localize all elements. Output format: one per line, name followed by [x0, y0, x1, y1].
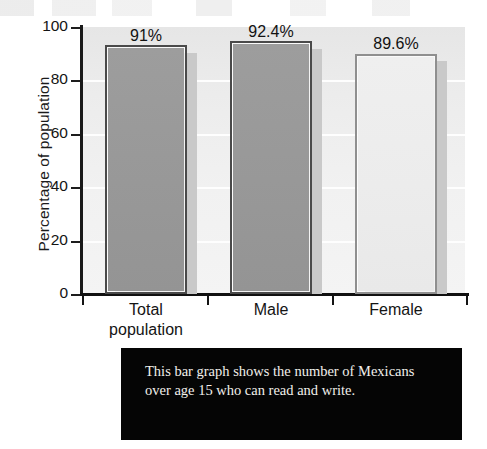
- bar-highlight-total-population: [107, 47, 185, 292]
- y-tick-label-20: 20: [24, 231, 68, 249]
- x-label-total-population: Total population: [86, 300, 206, 340]
- bar-value-female: 89.6%: [355, 35, 437, 53]
- x-tick-start: [82, 296, 84, 305]
- bar-highlight-male: [232, 43, 310, 292]
- x-tick-end: [466, 296, 468, 305]
- x-label-female: Female: [336, 300, 456, 320]
- bar-highlight-female: [357, 56, 435, 292]
- bar-chart: Percentage of population 100 80 60 40 20…: [0, 0, 487, 340]
- x-label-total-population-line2: population: [109, 321, 183, 338]
- caption-line-1: This bar graph shows the number of Mexic…: [145, 362, 445, 381]
- y-tick-label-40: 40: [24, 177, 68, 195]
- caption-text: This bar graph shows the number of Mexic…: [145, 362, 445, 400]
- y-tick-label-60: 60: [24, 124, 68, 142]
- x-label-total-population-line1: Total: [129, 301, 163, 318]
- bar-body-male: [230, 41, 312, 294]
- x-tick-2: [332, 296, 334, 305]
- x-label-male: Male: [211, 300, 331, 320]
- bar-body-female: [355, 54, 437, 294]
- y-tick-label-80: 80: [24, 70, 68, 88]
- bar-fill-total-population: [108, 48, 184, 291]
- y-axis-line: [80, 25, 83, 296]
- bar-value-total-population: 91%: [105, 27, 187, 45]
- caption-line-2: over age 15 who can read and write.: [145, 381, 445, 400]
- bar-fill-female: [358, 57, 434, 291]
- figure-page: Percentage of population 100 80 60 40 20…: [0, 0, 487, 449]
- x-tick-1: [207, 296, 209, 305]
- bar-value-male: 92.4%: [230, 23, 312, 41]
- y-tick-label-100: 100: [24, 17, 68, 35]
- y-tick-label-0: 0: [24, 284, 68, 302]
- bar-fill-male: [233, 44, 309, 291]
- x-label-male-line1: Male: [254, 301, 289, 318]
- x-label-female-line1: Female: [369, 301, 422, 318]
- bar-body-total-population: [105, 45, 187, 294]
- caption-box: This bar graph shows the number of Mexic…: [121, 348, 462, 440]
